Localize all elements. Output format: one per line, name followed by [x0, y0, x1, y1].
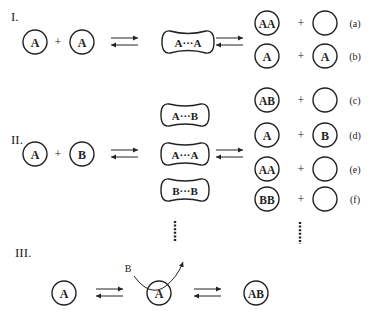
svg-text:AA: AA — [259, 18, 276, 30]
reaction-diagram: I. A + A A···A AA + (a) A + A (b) II. — [0, 0, 379, 313]
reactant-a-circle: A — [70, 30, 94, 54]
svg-text:A: A — [263, 50, 272, 64]
section-label-1: I. — [11, 9, 19, 24]
svg-text:+: + — [298, 128, 305, 142]
product-row-d: A + B (d) — [255, 123, 361, 147]
equilibrium-arrows-icon — [111, 38, 138, 45]
svg-text:+: + — [298, 49, 305, 63]
product-row-b: A + A (b) — [255, 44, 361, 68]
svg-text:A: A — [263, 129, 272, 143]
dimer-complex-aa: A···A — [161, 143, 209, 165]
svg-text:A···A: A···A — [175, 37, 202, 49]
section-label-3: III. — [15, 245, 31, 260]
reactant-a-circle: A — [23, 142, 47, 166]
svg-text:(e): (e) — [349, 164, 360, 176]
equilibrium-arrows-icon — [111, 150, 138, 157]
svg-text:(f): (f) — [350, 194, 360, 206]
svg-text:+: + — [298, 16, 305, 30]
svg-text:B: B — [78, 148, 86, 162]
equilibrium-arrows-icon — [96, 289, 123, 296]
product-row-e: AA + (e) — [255, 157, 361, 181]
dimer-complex-ab: A···B — [161, 104, 209, 126]
species-ab-circle: AB — [244, 281, 268, 305]
reactant-a-circle: A — [23, 30, 47, 54]
svg-text:A: A — [31, 148, 40, 162]
svg-text:A: A — [321, 50, 330, 64]
product-row-a: AA + (a) — [255, 11, 361, 35]
svg-text:AB: AB — [248, 288, 264, 300]
plus-sign: + — [55, 147, 62, 161]
svg-text:A: A — [31, 36, 40, 50]
svg-text:B: B — [321, 129, 329, 143]
svg-text:A···B: A···B — [172, 110, 199, 122]
product-row-f: BB + (f) — [255, 187, 360, 211]
section-label-2: II. — [11, 132, 23, 147]
svg-text:(b): (b) — [349, 51, 361, 63]
svg-text:+: + — [298, 93, 305, 107]
dimer-complex-aa: A···A — [162, 31, 214, 53]
product-row-c: AB + (c) — [255, 88, 361, 112]
species-a-circle: A — [52, 281, 76, 305]
plus-sign: + — [55, 35, 62, 49]
svg-text:+: + — [298, 192, 305, 206]
svg-text:(d): (d) — [349, 130, 361, 142]
svg-text:+: + — [298, 162, 305, 176]
svg-text:B···B: B···B — [172, 185, 198, 197]
reactant-b-circle: B — [70, 142, 94, 166]
equilibrium-arrows-icon — [216, 150, 243, 157]
incoming-b-label: B — [125, 263, 132, 274]
svg-text:(c): (c) — [349, 95, 360, 107]
dimer-complex-bb: B···B — [161, 179, 209, 201]
svg-text:A···A: A···A — [172, 149, 199, 161]
svg-text:AA: AA — [259, 164, 276, 176]
svg-text:(a): (a) — [349, 18, 360, 30]
svg-text:AB: AB — [259, 95, 275, 107]
svg-text:A: A — [78, 36, 87, 50]
svg-text:A: A — [60, 287, 69, 301]
equilibrium-arrows-icon — [216, 38, 243, 45]
svg-text:BB: BB — [259, 194, 275, 206]
equilibrium-arrows-icon — [194, 289, 221, 296]
